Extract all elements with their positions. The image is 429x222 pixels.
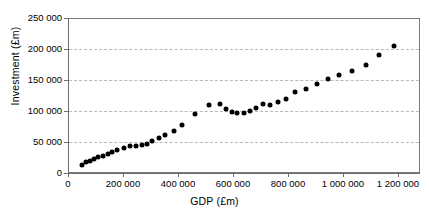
x-tick-label-400000: 400 000: [161, 179, 195, 189]
data-point: [122, 146, 126, 150]
x-tick-1000000: [343, 173, 344, 177]
x-axis-line: [68, 173, 420, 174]
x-tick-label-800000: 800 000: [271, 179, 305, 189]
x-tick-label-0: 0: [65, 179, 70, 189]
x-tick-label-600000: 600 000: [216, 179, 250, 189]
x-tick-800000: [288, 173, 289, 177]
y-tick-50000: [64, 142, 68, 143]
data-point: [145, 142, 149, 146]
x-tick-label-1200000: 1 200 000: [377, 179, 419, 189]
x-axis-title: GDP (£m): [0, 195, 429, 207]
x-tick-label-1000000: 1 000 000: [322, 179, 364, 189]
y-tick-label-0: 0: [0, 168, 62, 178]
data-point: [80, 163, 84, 167]
gridline-150000: [69, 80, 419, 81]
x-tick-1200000: [398, 173, 399, 177]
x-tick-0: [68, 173, 69, 177]
data-point: [242, 111, 246, 115]
data-point: [248, 109, 252, 113]
y-tick-250000: [64, 18, 68, 19]
y-axis-line: [68, 18, 69, 173]
plot-area: [68, 18, 420, 173]
gridline-50000: [69, 142, 419, 143]
scatter-chart: 250 000 200 000 150 000 100 000 50 000 0…: [0, 0, 429, 222]
y-tick-150000: [64, 80, 68, 81]
x-tick-200000: [123, 173, 124, 177]
data-point: [315, 82, 319, 86]
data-point: [101, 154, 105, 158]
data-point: [326, 77, 330, 81]
data-point: [140, 143, 144, 147]
data-point: [207, 103, 211, 107]
y-tick-200000: [64, 49, 68, 50]
y-tick-100000: [64, 111, 68, 112]
data-point: [364, 63, 368, 67]
data-point: [304, 87, 308, 91]
data-point: [276, 100, 280, 104]
x-tick-400000: [178, 173, 179, 177]
x-tick-label-200000: 200 000: [106, 179, 140, 189]
data-point: [157, 136, 161, 140]
gridline-200000: [69, 49, 419, 50]
data-point: [284, 97, 288, 101]
data-point: [337, 73, 341, 77]
data-point: [106, 152, 110, 156]
y-axis-title: Investment (£m): [9, 0, 21, 136]
y-tick-label-50000: 50 000: [0, 137, 62, 147]
data-point: [268, 103, 272, 107]
data-point: [218, 102, 222, 106]
data-point: [180, 123, 184, 127]
data-point: [110, 150, 114, 154]
x-tick-600000: [233, 173, 234, 177]
data-point: [261, 102, 265, 106]
